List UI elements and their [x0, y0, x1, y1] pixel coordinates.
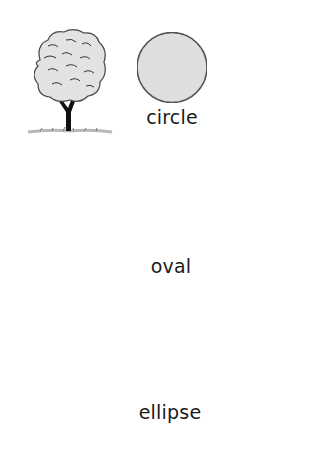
leafy-tree-circle	[28, 30, 112, 132]
crown-circle-icon	[34, 30, 105, 102]
tree-shapes-diagram: circle oval ellipse	[0, 0, 335, 449]
shape-circle	[137, 33, 207, 103]
label-ellipse: ellipse	[110, 401, 230, 423]
label-oval: oval	[111, 255, 231, 277]
label-circle: circle	[112, 106, 232, 128]
trunk-icon	[58, 98, 76, 131]
